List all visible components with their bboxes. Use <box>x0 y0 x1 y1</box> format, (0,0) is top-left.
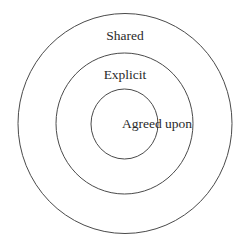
label-shared: Shared <box>106 28 144 43</box>
label-explicit: Explicit <box>104 67 147 82</box>
label-agreed-upon: Agreed upon <box>122 116 192 131</box>
concentric-circles-diagram: Shared Explicit Agreed upon <box>0 0 242 245</box>
